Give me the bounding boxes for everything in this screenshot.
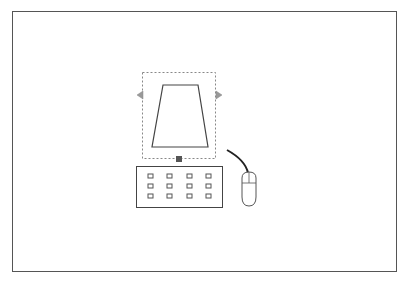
resize-right-arrow-icon[interactable] <box>216 91 222 99</box>
keyboard-shape[interactable] <box>137 167 223 208</box>
monitor-shape[interactable] <box>152 85 208 147</box>
bottom-resize-handle[interactable] <box>176 156 182 162</box>
resize-left-arrow-icon[interactable] <box>137 91 143 99</box>
diagram-canvas <box>0 0 410 286</box>
mouse-shape[interactable] <box>227 150 256 206</box>
mouse-cable <box>227 150 248 173</box>
